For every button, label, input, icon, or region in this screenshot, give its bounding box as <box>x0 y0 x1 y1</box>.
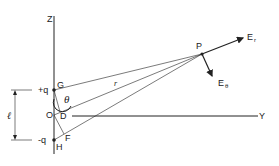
etheta-label: Eθ <box>218 78 229 89</box>
point-h-label: H <box>56 142 63 152</box>
r-label: r <box>114 79 118 88</box>
y-axis-label: Y <box>259 111 265 121</box>
point-o-label: O <box>46 110 53 120</box>
point-d-label: D <box>60 111 67 121</box>
er-vector <box>202 38 243 54</box>
theta-label: θ <box>64 93 70 105</box>
positive-charge-label: +q <box>38 85 48 95</box>
separation-label: ℓ <box>7 110 11 121</box>
z-axis-label: Z <box>47 14 53 24</box>
dipole-diagram: Z Y θ r +q -q G O D F H ℓ P Er Eθ <box>0 0 279 166</box>
segment-g-d <box>54 90 60 112</box>
point-p-label: P <box>196 41 202 51</box>
negative-charge-label: -q <box>38 135 46 145</box>
positive-charge <box>52 88 56 92</box>
er-label: Er <box>247 32 256 43</box>
etheta-vector <box>202 54 212 76</box>
line-h-to-p <box>54 54 202 140</box>
point-g-label: G <box>57 80 64 90</box>
point-f-label: F <box>65 133 71 143</box>
